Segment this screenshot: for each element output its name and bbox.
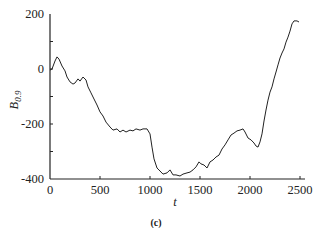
y-axis-label: B0.9: [7, 90, 23, 109]
x-tick-label: 500: [91, 183, 110, 197]
series-line: [50, 21, 299, 176]
y-tick-label: 200: [25, 7, 44, 21]
svg-text:B0.9: B0.9: [7, 90, 23, 109]
y-tick-label: -200: [21, 117, 44, 131]
x-tick-label: 1500: [188, 183, 213, 197]
ticks: [50, 42, 300, 180]
x-axis-label: t: [173, 195, 177, 209]
y-tick-label: -400: [21, 172, 44, 186]
x-tick-label: 0: [47, 183, 53, 197]
tick-labels: 050010001500200025002000-200-400: [21, 7, 312, 197]
x-tick-label: 1000: [138, 183, 163, 197]
y-axis-label-subscript: 0.9: [13, 90, 23, 102]
line-chart: 050010001500200025002000-200-400 t B0.9 …: [0, 0, 315, 228]
panel-label: (c): [150, 217, 161, 228]
axes: [50, 14, 305, 179]
x-tick-label: 2000: [238, 183, 263, 197]
y-tick-label: 0: [38, 62, 44, 76]
x-tick-label: 2500: [288, 183, 313, 197]
